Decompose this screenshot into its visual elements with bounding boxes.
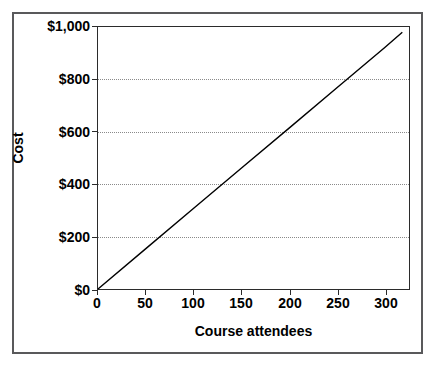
x-tick-label-300: 300: [374, 296, 397, 310]
x-axis-tick-labels: 0 50 100 150 200 250 300: [97, 296, 410, 316]
y-tick-label-400: $400: [59, 177, 90, 191]
x-tick-label-50: 50: [137, 296, 153, 310]
y-tick-label-200: $200: [59, 230, 90, 244]
x-tick-label-150: 150: [229, 296, 252, 310]
y-axis-title: Cost: [10, 108, 26, 188]
series-cost-line: [98, 27, 409, 289]
plot-area: [97, 26, 410, 290]
y-tick-label-800: $800: [59, 72, 90, 86]
x-axis-title: Course attendees: [97, 323, 410, 339]
y-tick-label-0: $0: [74, 283, 90, 297]
x-tick-label-250: 250: [326, 296, 349, 310]
chart-figure: $1,000 $800 $600 $400 $200 $0 0 50 100 1…: [0, 0, 435, 369]
x-tick-label-0: 0: [93, 296, 101, 310]
y-tick-label-1000: $1,000: [47, 19, 90, 33]
y-tick-label-600: $600: [59, 125, 90, 139]
x-tick-label-100: 100: [181, 296, 204, 310]
x-tick-label-200: 200: [278, 296, 301, 310]
